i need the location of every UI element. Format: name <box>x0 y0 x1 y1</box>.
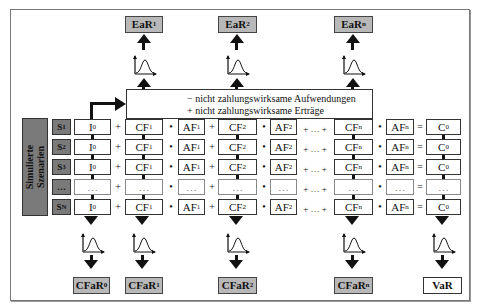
operator: + <box>112 141 124 152</box>
elbow-connector <box>90 102 116 105</box>
equation-term-cf2: CF2 <box>218 119 257 135</box>
side-label-line1: Simulierte <box>24 145 35 189</box>
equation-term-i0: … <box>74 179 111 195</box>
arrow-down-icon <box>84 216 98 225</box>
equation-term-af2: AF2 <box>270 159 297 175</box>
non-cash-adjustments-box: − nicht zahlungswirksame Aufwendungen + … <box>126 89 373 119</box>
operator: • <box>258 121 270 132</box>
equation-term-i0: I0 <box>74 119 111 135</box>
equation-term-af1: AF1 <box>178 139 205 155</box>
operator: • <box>165 161 177 172</box>
cfar-n-box: CFaRn <box>334 277 373 294</box>
operator: + <box>206 141 218 152</box>
equation-term-cfn: … <box>334 179 373 195</box>
operator: • <box>165 141 177 152</box>
operator: = <box>414 161 426 172</box>
equation-term-cfn: CFn <box>334 159 373 175</box>
arrow-right-icon <box>115 97 126 111</box>
scenario-label: S2 <box>52 139 71 155</box>
simulated-scenarios-label: SimulierteSzenarien <box>22 118 48 216</box>
arrow-down-icon <box>135 260 149 269</box>
equation-term-i0: I0 <box>74 159 111 175</box>
arrow-shaft <box>351 42 354 50</box>
operator: • <box>165 201 177 212</box>
distribution-curve-icon <box>225 232 251 254</box>
arrow-shaft <box>142 42 145 50</box>
arrow-down-icon <box>435 216 449 225</box>
operator: + <box>206 121 218 132</box>
operator: + <box>206 161 218 172</box>
arrow-shaft <box>351 255 354 261</box>
equation-term-c0: C0 <box>426 199 461 215</box>
distribution-curve-icon <box>225 54 251 76</box>
equation-term-cf2: CF2 <box>218 199 257 215</box>
equation-term-af2: … <box>270 179 297 195</box>
operator: + … + <box>298 184 332 194</box>
equation-term-af1: AF1 <box>178 199 205 215</box>
operator: • <box>165 121 177 132</box>
operator: + <box>206 201 218 212</box>
operator: + <box>112 121 124 132</box>
equation-term-c0: C0 <box>426 119 461 135</box>
ear-2-box: EaR2 <box>218 16 257 33</box>
equation-term-af2: AF2 <box>270 199 297 215</box>
equation-term-afn: AFn <box>386 139 414 155</box>
arrow-down-icon <box>135 216 149 225</box>
equation-term-c0: C0 <box>426 159 461 175</box>
operator: • <box>374 181 386 192</box>
arrow-down-icon <box>345 260 359 269</box>
operator: • <box>258 181 270 192</box>
equation-term-cfn: CFn <box>334 119 373 135</box>
operator: • <box>258 201 270 212</box>
cfar-1-box: CFaR1 <box>125 277 163 294</box>
equation-term-afn: AFn <box>386 159 414 175</box>
equation-term-i0: I0 <box>74 139 111 155</box>
equation-term-cf2: CF2 <box>218 139 257 155</box>
arrow-down-icon <box>84 260 98 269</box>
diagram-frame <box>10 9 470 301</box>
equation-term-af1: AF1 <box>178 159 205 175</box>
distribution-curve-icon <box>131 232 157 254</box>
scenario-label: S3 <box>52 159 71 175</box>
equation-term-cf1: … <box>125 179 163 195</box>
operator: + … + <box>298 164 332 174</box>
operator: + <box>206 181 218 192</box>
distribution-curve-icon <box>132 54 158 76</box>
equation-term-afn: AFn <box>386 119 414 135</box>
equation-term-af1: … <box>178 179 205 195</box>
equation-term-af1: AF1 <box>178 119 205 135</box>
operator: = <box>414 201 426 212</box>
operator: + … + <box>298 144 332 154</box>
equation-term-cf1: CF1 <box>125 139 163 155</box>
operator: • <box>374 121 386 132</box>
equation-term-c0: C0 <box>426 139 461 155</box>
operator: • <box>374 201 386 212</box>
operator: + <box>112 161 124 172</box>
arrow-shaft <box>235 42 238 50</box>
operator: • <box>374 161 386 172</box>
equation-term-afn: AFn <box>386 199 414 215</box>
distribution-curve-icon <box>341 54 367 76</box>
scenario-label: S1 <box>52 119 71 135</box>
equation-term-af2: AF2 <box>270 119 297 135</box>
equation-term-cf2: CF2 <box>218 159 257 175</box>
operator: = <box>414 121 426 132</box>
arrow-down-icon <box>345 216 359 225</box>
arrow-shaft <box>141 255 144 261</box>
non-cash-expenses-text: − nicht zahlungswirksame Aufwendungen <box>187 93 372 105</box>
distribution-curve-icon <box>80 232 106 254</box>
elbow-connector <box>90 103 93 119</box>
operator: + … + <box>298 124 332 134</box>
equation-term-i0: I0 <box>74 199 111 215</box>
equation-term-af2: AF2 <box>270 139 297 155</box>
operator: • <box>165 181 177 192</box>
operator: + <box>112 201 124 212</box>
equation-term-cfn: CFn <box>334 139 373 155</box>
cfar-0-box: CFaR0 <box>73 277 110 294</box>
arrow-down-icon <box>435 260 449 269</box>
distribution-curve-icon <box>431 232 457 254</box>
ear-1-box: EaR1 <box>125 16 163 33</box>
operator: • <box>374 141 386 152</box>
arrow-down-icon <box>229 260 243 269</box>
non-cash-income-text: + nicht zahlungswirksame Erträge <box>187 105 372 117</box>
